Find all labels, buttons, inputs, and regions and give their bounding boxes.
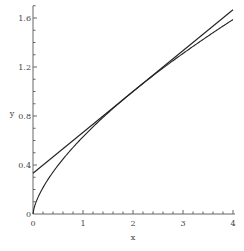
ticks [33, 6, 233, 214]
series [33, 10, 233, 214]
x-tick-label: 3 [180, 219, 185, 228]
y-tick-label: 1.2 [18, 63, 31, 72]
x-axis-label: x [131, 233, 136, 242]
y-axis-label: y [9, 109, 15, 118]
y-tick-label: 0 [26, 210, 31, 219]
y-tick-label: 1.6 [18, 14, 31, 23]
x-tick-label: 0 [30, 219, 35, 228]
chart: 0123400.40.81.21.6 x y [0, 0, 244, 251]
x-tick-label: 1 [80, 219, 85, 228]
x-tick-label: 2 [130, 219, 135, 228]
x-tick-label: 4 [230, 219, 235, 228]
curve-series [33, 20, 233, 214]
axes [33, 6, 235, 214]
tick-labels: 0123400.40.81.21.6 [18, 14, 235, 228]
y-tick-label: 0.4 [18, 161, 31, 170]
y-tick-label: 0.8 [18, 112, 31, 121]
tangent-line-series [33, 10, 233, 173]
